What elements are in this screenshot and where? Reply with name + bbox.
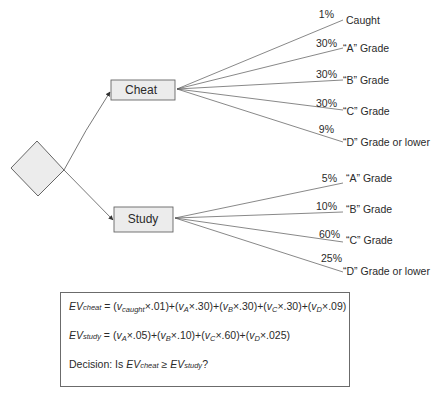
decision-left-sub: cheat	[140, 362, 158, 370]
expected-value-formula-box: EVcheat = (vcaught×.01)+(vA×.30)+(vB×.30…	[60, 292, 350, 387]
term-coef: .60	[222, 329, 237, 341]
study-label: Study	[128, 212, 159, 226]
decision-question: Decision: Is EVcheat ≥ EVstudy?	[69, 359, 349, 388]
decision-node-diamond	[11, 141, 64, 196]
term-coef: .10	[177, 329, 192, 341]
term-sub: D	[255, 334, 260, 343]
term-coef: .30	[195, 300, 210, 312]
branch-probability: 30%	[316, 37, 337, 49]
term-coef: .30	[284, 300, 299, 312]
decision-tree: Cheat Study 1% Caught 30% “A” Grade 30% …	[0, 0, 445, 290]
decision-right-sub: study	[184, 362, 202, 370]
branch-outcome: “D” Grade or lower	[343, 265, 430, 277]
decision-left: EV	[126, 359, 140, 370]
decision-prefix: Decision: Is	[69, 359, 126, 370]
term-sub: C	[272, 305, 277, 314]
term-sub: C	[210, 334, 215, 343]
ev-study-lhs-sub: study	[83, 333, 101, 341]
study-branches: 5% “A” Grade 10% “B” Grade 60% “C” Grade…	[175, 172, 430, 277]
branch-probability: 1%	[319, 8, 334, 20]
branch-probability: 30%	[316, 97, 337, 109]
branch-outcome: “A” Grade	[343, 42, 389, 54]
ev-study-terms: (vA×.05)+(vB×.10)+(vC×.60)+(vD×.025)	[113, 330, 290, 343]
cheat-branches: 1% Caught 30% “A” Grade 30% “B” Grade 30…	[177, 8, 430, 148]
decision-operator: ≥	[159, 359, 171, 370]
equals-sign: =	[101, 301, 113, 312]
branch-probability: 5%	[322, 172, 337, 184]
branch-probability: 10%	[316, 200, 337, 212]
ev-cheat-lhs: EV	[69, 301, 83, 312]
branch-probability: 25%	[321, 252, 342, 264]
branch-probability: 60%	[319, 228, 340, 240]
option-study: Study	[114, 207, 173, 232]
term-sub: caught	[122, 305, 145, 314]
branch-outcome: “D” Grade or lower	[343, 136, 430, 148]
term-coef: .025	[266, 329, 286, 341]
term-coef: .30	[239, 300, 254, 312]
branch-line	[175, 218, 343, 272]
term-coef: .05	[133, 329, 148, 341]
ev-study-lhs: EV	[69, 330, 83, 341]
branch-outcome: Caught	[346, 14, 380, 26]
branch-outcome: “C” Grade	[346, 234, 393, 246]
branch-outcome: “B” Grade	[346, 203, 392, 215]
term-sub: D	[317, 305, 322, 314]
ev-cheat-formula: EVcheat = (vcaught×.01)+(vA×.30)+(vB×.30…	[69, 301, 349, 330]
equals-sign: =	[101, 330, 113, 341]
branch-outcome: “A” Grade	[346, 172, 392, 184]
term-sub: A	[184, 305, 189, 314]
term-coef: .01	[151, 300, 166, 312]
term-sub: B	[166, 334, 171, 343]
term-coef: .09	[328, 300, 343, 312]
ev-study-formula: EVstudy = (vA×.05)+(vB×.10)+(vC×.60)+(vD…	[69, 330, 349, 359]
term-sub: A	[122, 334, 127, 343]
decision-suffix: ?	[202, 359, 208, 370]
branch-probability: 30%	[316, 68, 337, 80]
term-sub: B	[228, 305, 233, 314]
connector-to-cheat	[64, 92, 110, 170]
branch-line	[175, 218, 343, 242]
branch-probability: 9%	[319, 123, 334, 135]
ev-cheat-lhs-sub: cheat	[83, 304, 101, 312]
option-cheat: Cheat	[111, 80, 175, 100]
ev-cheat-terms: (vcaught×.01)+(vA×.30)+(vB×.30)+(vC×.30)…	[113, 301, 346, 314]
cheat-label: Cheat	[125, 83, 158, 97]
connector-to-study	[64, 170, 113, 220]
branch-outcome: “B” Grade	[343, 74, 389, 86]
decision-right: EV	[170, 359, 184, 370]
branch-line	[177, 80, 343, 89]
branch-outcome: “C” Grade	[343, 105, 390, 117]
